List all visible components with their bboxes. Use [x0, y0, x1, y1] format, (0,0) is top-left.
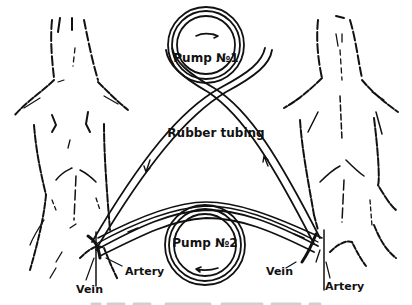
- right-animal-illustration: [284, 16, 398, 290]
- left-vein-pointer: [86, 258, 94, 280]
- cross-circulation-diagram: Pump №1 Pump №2 Rubber tubing Vein Arter…: [0, 0, 412, 305]
- left-vessel-labels: Vein Artery: [76, 258, 164, 296]
- right-vessel-labels: Vein Artery: [266, 262, 364, 293]
- pump-2: Pump №2: [165, 205, 245, 285]
- right-artery-label: Artery: [325, 280, 364, 293]
- left-artery-label: Artery: [125, 265, 164, 278]
- right-vein-label: Vein: [266, 265, 293, 278]
- rubber-tubing: [88, 48, 322, 262]
- pump-1: Pump №1: [168, 7, 244, 83]
- left-artery-pointer: [106, 258, 122, 266]
- left-vein-label: Vein: [76, 283, 103, 296]
- clockwise-arrow-icon: [196, 34, 218, 38]
- left-animal-illustration: [14, 18, 128, 286]
- flow-arrows: [128, 156, 304, 238]
- right-artery-pointer: [326, 262, 330, 278]
- counter-clockwise-arrow-icon: [196, 267, 218, 272]
- pump-1-label: Pump №1: [173, 51, 238, 65]
- rubber-tubing-label: Rubber tubing: [167, 126, 264, 140]
- pump-2-label: Pump №2: [172, 236, 237, 250]
